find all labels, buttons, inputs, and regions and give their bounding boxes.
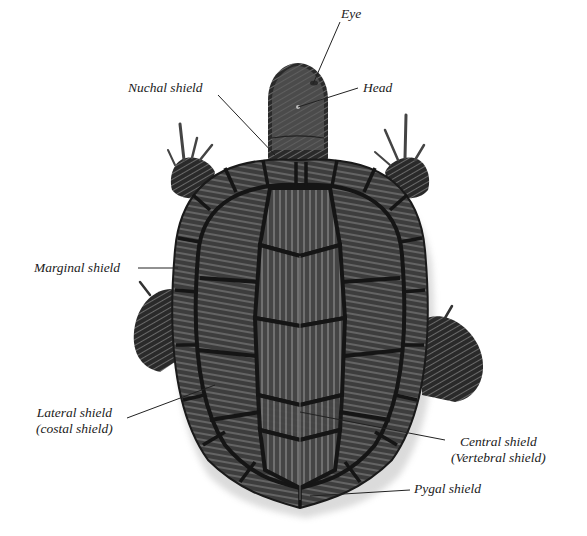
label-central-line2: (Vertebral shield) <box>451 450 546 466</box>
label-marginal-shield: Marginal shield <box>34 260 120 276</box>
label-central-line1: Central shield <box>451 434 546 450</box>
carapace <box>172 159 428 508</box>
head <box>268 63 328 160</box>
label-pygal-shield: Pygal shield <box>414 481 481 497</box>
rear-left-foot <box>134 282 178 372</box>
leader-eye <box>313 22 340 84</box>
rear-right-foot <box>422 306 483 402</box>
label-nuchal-shield: Nuchal shield <box>128 80 203 96</box>
label-central-shield: Central shield (Vertebral shield) <box>451 434 546 466</box>
label-lateral-line2: (costal shield) <box>36 421 113 437</box>
label-lateral-line1: Lateral shield <box>36 405 113 421</box>
label-head: Head <box>363 80 392 96</box>
leader-nuchal <box>218 95 275 155</box>
label-eye: Eye <box>341 6 361 22</box>
label-lateral-shield: Lateral shield (costal shield) <box>36 405 113 437</box>
